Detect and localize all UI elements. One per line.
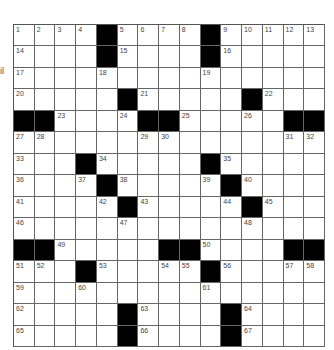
grid-cell[interactable]: 54 bbox=[159, 261, 180, 282]
grid-cell[interactable]: 45 bbox=[263, 197, 284, 218]
grid-cell[interactable]: 57 bbox=[284, 261, 305, 282]
grid-cell[interactable]: 42 bbox=[97, 197, 118, 218]
grid-cell[interactable] bbox=[304, 304, 325, 325]
grid-cell[interactable] bbox=[221, 111, 242, 132]
grid-cell[interactable]: 16 bbox=[221, 46, 242, 67]
grid-cell[interactable] bbox=[97, 304, 118, 325]
grid-cell[interactable] bbox=[221, 132, 242, 153]
grid-cell[interactable] bbox=[138, 175, 159, 196]
grid-cell[interactable] bbox=[159, 197, 180, 218]
grid-cell[interactable] bbox=[180, 218, 201, 239]
grid-cell[interactable] bbox=[180, 283, 201, 304]
grid-cell[interactable]: 14 bbox=[14, 46, 35, 67]
grid-cell[interactable] bbox=[55, 175, 76, 196]
grid-cell[interactable] bbox=[138, 68, 159, 89]
grid-cell[interactable] bbox=[76, 68, 97, 89]
grid-cell[interactable] bbox=[76, 240, 97, 261]
grid-cell[interactable] bbox=[35, 283, 56, 304]
grid-cell[interactable]: 38 bbox=[118, 175, 139, 196]
grid-cell[interactable] bbox=[97, 89, 118, 110]
grid-cell[interactable] bbox=[55, 283, 76, 304]
grid-cell[interactable]: 2 bbox=[35, 25, 56, 46]
grid-cell[interactable]: 40 bbox=[242, 175, 263, 196]
grid-cell[interactable] bbox=[201, 132, 222, 153]
grid-cell[interactable] bbox=[284, 218, 305, 239]
grid-cell[interactable]: 28 bbox=[35, 132, 56, 153]
grid-cell[interactable] bbox=[35, 154, 56, 175]
grid-cell[interactable]: 64 bbox=[242, 304, 263, 325]
grid-cell[interactable]: 44 bbox=[221, 197, 242, 218]
grid-cell[interactable] bbox=[221, 218, 242, 239]
grid-cell[interactable]: 47 bbox=[118, 218, 139, 239]
grid-cell[interactable] bbox=[263, 326, 284, 347]
grid-cell[interactable] bbox=[304, 283, 325, 304]
grid-cell[interactable]: 25 bbox=[180, 111, 201, 132]
grid-cell[interactable] bbox=[159, 283, 180, 304]
grid-cell[interactable] bbox=[138, 240, 159, 261]
grid-cell[interactable] bbox=[76, 304, 97, 325]
grid-cell[interactable] bbox=[118, 261, 139, 282]
grid-cell[interactable] bbox=[159, 154, 180, 175]
grid-cell[interactable]: 9 bbox=[221, 25, 242, 46]
grid-cell[interactable] bbox=[97, 240, 118, 261]
grid-cell[interactable]: 20 bbox=[14, 89, 35, 110]
grid-cell[interactable] bbox=[159, 326, 180, 347]
grid-cell[interactable] bbox=[180, 46, 201, 67]
grid-cell[interactable] bbox=[263, 68, 284, 89]
grid-cell[interactable]: 33 bbox=[14, 154, 35, 175]
grid-cell[interactable] bbox=[263, 261, 284, 282]
grid-cell[interactable] bbox=[159, 304, 180, 325]
grid-cell[interactable] bbox=[55, 46, 76, 67]
grid-cell[interactable]: 12 bbox=[284, 25, 305, 46]
grid-cell[interactable] bbox=[55, 132, 76, 153]
grid-cell[interactable]: 52 bbox=[35, 261, 56, 282]
grid-cell[interactable]: 60 bbox=[76, 283, 97, 304]
grid-cell[interactable] bbox=[97, 218, 118, 239]
grid-cell[interactable] bbox=[76, 132, 97, 153]
grid-cell[interactable] bbox=[55, 154, 76, 175]
grid-cell[interactable]: 61 bbox=[201, 283, 222, 304]
grid-cell[interactable] bbox=[263, 154, 284, 175]
grid-cell[interactable]: 23 bbox=[55, 111, 76, 132]
grid-cell[interactable] bbox=[35, 89, 56, 110]
grid-cell[interactable]: 18 bbox=[97, 68, 118, 89]
grid-cell[interactable]: 36 bbox=[14, 175, 35, 196]
grid-cell[interactable] bbox=[263, 46, 284, 67]
grid-cell[interactable] bbox=[304, 46, 325, 67]
grid-cell[interactable]: 27 bbox=[14, 132, 35, 153]
grid-cell[interactable] bbox=[284, 89, 305, 110]
grid-cell[interactable] bbox=[201, 218, 222, 239]
grid-cell[interactable]: 7 bbox=[159, 25, 180, 46]
grid-cell[interactable]: 56 bbox=[221, 261, 242, 282]
grid-cell[interactable] bbox=[35, 175, 56, 196]
grid-cell[interactable]: 43 bbox=[138, 197, 159, 218]
grid-cell[interactable] bbox=[118, 154, 139, 175]
grid-cell[interactable]: 3 bbox=[55, 25, 76, 46]
grid-cell[interactable]: 31 bbox=[284, 132, 305, 153]
grid-cell[interactable]: 10 bbox=[242, 25, 263, 46]
grid-cell[interactable] bbox=[263, 304, 284, 325]
grid-cell[interactable] bbox=[118, 132, 139, 153]
grid-cell[interactable] bbox=[97, 283, 118, 304]
grid-cell[interactable] bbox=[242, 261, 263, 282]
grid-cell[interactable]: 5 bbox=[118, 25, 139, 46]
grid-cell[interactable]: 58 bbox=[304, 261, 325, 282]
grid-cell[interactable] bbox=[35, 326, 56, 347]
grid-cell[interactable] bbox=[263, 218, 284, 239]
grid-cell[interactable]: 37 bbox=[76, 175, 97, 196]
grid-cell[interactable] bbox=[180, 154, 201, 175]
grid-cell[interactable] bbox=[304, 89, 325, 110]
grid-cell[interactable]: 55 bbox=[180, 261, 201, 282]
grid-cell[interactable] bbox=[35, 68, 56, 89]
grid-cell[interactable] bbox=[138, 261, 159, 282]
grid-cell[interactable]: 1 bbox=[14, 25, 35, 46]
grid-cell[interactable] bbox=[263, 111, 284, 132]
grid-cell[interactable] bbox=[304, 175, 325, 196]
grid-cell[interactable] bbox=[242, 240, 263, 261]
grid-cell[interactable] bbox=[263, 132, 284, 153]
grid-cell[interactable] bbox=[55, 218, 76, 239]
grid-cell[interactable] bbox=[35, 304, 56, 325]
grid-cell[interactable] bbox=[35, 197, 56, 218]
grid-cell[interactable] bbox=[55, 261, 76, 282]
grid-cell[interactable] bbox=[55, 326, 76, 347]
